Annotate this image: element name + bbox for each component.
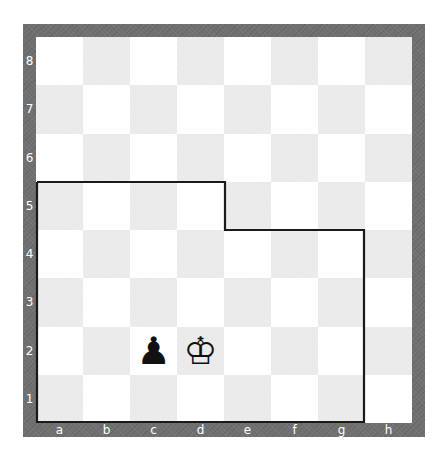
square-b3[interactable]: [83, 278, 130, 326]
square-b8[interactable]: [83, 37, 130, 85]
square-b6[interactable]: [83, 134, 130, 182]
square-e6[interactable]: [224, 134, 271, 182]
file-label-c: c: [130, 424, 177, 437]
square-a7[interactable]: [36, 85, 83, 133]
file-label-a: a: [36, 424, 83, 437]
square-f7[interactable]: [271, 85, 318, 133]
square-h8[interactable]: [365, 37, 412, 85]
square-c6[interactable]: [130, 134, 177, 182]
square-f4[interactable]: [271, 230, 318, 278]
square-h2[interactable]: [365, 327, 412, 375]
square-g1[interactable]: [318, 375, 365, 423]
square-a3[interactable]: [36, 278, 83, 326]
black-pawn-icon[interactable]: ♟: [130, 327, 177, 375]
square-b2[interactable]: [83, 327, 130, 375]
rank-label-6: 6: [23, 151, 36, 165]
square-c1[interactable]: [130, 375, 177, 423]
square-d4[interactable]: [177, 230, 224, 278]
square-e8[interactable]: [224, 37, 271, 85]
square-d6[interactable]: [177, 134, 224, 182]
square-e4[interactable]: [224, 230, 271, 278]
square-c2[interactable]: ♟: [130, 327, 177, 375]
square-b7[interactable]: [83, 85, 130, 133]
square-g7[interactable]: [318, 85, 365, 133]
square-b4[interactable]: [83, 230, 130, 278]
square-g4[interactable]: [318, 230, 365, 278]
square-d1[interactable]: [177, 375, 224, 423]
square-h5[interactable]: [365, 182, 412, 230]
file-label-b: b: [83, 424, 130, 437]
square-c7[interactable]: [130, 85, 177, 133]
square-g6[interactable]: [318, 134, 365, 182]
square-f1[interactable]: [271, 375, 318, 423]
square-g8[interactable]: [318, 37, 365, 85]
square-f2[interactable]: [271, 327, 318, 375]
square-g5[interactable]: [318, 182, 365, 230]
rank-label-8: 8: [23, 54, 36, 68]
square-h7[interactable]: [365, 85, 412, 133]
rank-label-7: 7: [23, 102, 36, 116]
square-a1[interactable]: [36, 375, 83, 423]
square-e2[interactable]: [224, 327, 271, 375]
square-h3[interactable]: [365, 278, 412, 326]
square-b5[interactable]: [83, 182, 130, 230]
square-a8[interactable]: [36, 37, 83, 85]
rank-label-4: 4: [23, 247, 36, 261]
square-f3[interactable]: [271, 278, 318, 326]
white-king-icon[interactable]: ♔: [177, 327, 224, 375]
file-label-f: f: [271, 424, 318, 437]
square-d8[interactable]: [177, 37, 224, 85]
file-label-e: e: [224, 424, 271, 437]
square-d7[interactable]: [177, 85, 224, 133]
square-g3[interactable]: [318, 278, 365, 326]
square-h6[interactable]: [365, 134, 412, 182]
square-a4[interactable]: [36, 230, 83, 278]
square-b1[interactable]: [83, 375, 130, 423]
square-a2[interactable]: [36, 327, 83, 375]
square-e1[interactable]: [224, 375, 271, 423]
square-f5[interactable]: [271, 182, 318, 230]
file-label-d: d: [177, 424, 224, 437]
chess-board: ♟♔: [36, 37, 412, 423]
square-d3[interactable]: [177, 278, 224, 326]
file-label-g: g: [318, 424, 365, 437]
square-e7[interactable]: [224, 85, 271, 133]
square-c3[interactable]: [130, 278, 177, 326]
rank-label-1: 1: [23, 392, 36, 406]
rank-label-2: 2: [23, 344, 36, 358]
rank-label-5: 5: [23, 199, 36, 213]
square-e5[interactable]: [224, 182, 271, 230]
square-d2[interactable]: ♔: [177, 327, 224, 375]
square-e3[interactable]: [224, 278, 271, 326]
square-a5[interactable]: [36, 182, 83, 230]
square-c8[interactable]: [130, 37, 177, 85]
file-label-h: h: [365, 424, 412, 437]
square-c4[interactable]: [130, 230, 177, 278]
square-h4[interactable]: [365, 230, 412, 278]
square-f8[interactable]: [271, 37, 318, 85]
square-g2[interactable]: [318, 327, 365, 375]
square-a6[interactable]: [36, 134, 83, 182]
square-c5[interactable]: [130, 182, 177, 230]
square-f6[interactable]: [271, 134, 318, 182]
rank-label-3: 3: [23, 295, 36, 309]
square-d5[interactable]: [177, 182, 224, 230]
square-h1[interactable]: [365, 375, 412, 423]
